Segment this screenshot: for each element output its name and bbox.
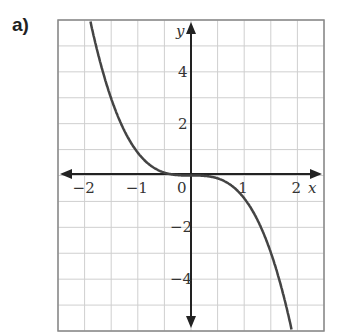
svg-text:−2: −2 (170, 218, 192, 236)
arrow-down-icon (186, 316, 196, 328)
svg-text:−4: −4 (170, 270, 192, 288)
x-axis-label: x (308, 179, 317, 197)
arrow-up-icon (186, 22, 196, 34)
y-axis-label: y (175, 22, 185, 40)
svg-text:1: 1 (238, 179, 248, 197)
svg-text:2: 2 (291, 179, 301, 197)
arrow-right-icon (310, 169, 322, 179)
svg-text:4: 4 (178, 63, 188, 81)
svg-text:−2: −2 (73, 179, 95, 197)
graph: −2−101242−2−4 y x (0, 0, 342, 333)
svg-text:2: 2 (178, 115, 188, 133)
svg-text:−1: −1 (126, 179, 148, 197)
svg-text:0: 0 (177, 179, 187, 197)
arrow-left-icon (60, 169, 72, 179)
